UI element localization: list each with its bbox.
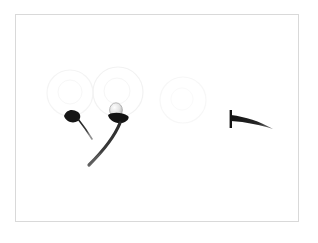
ghost-circle-left	[47, 70, 93, 116]
specimen-left-head	[64, 110, 80, 122]
specimen-left-small	[64, 110, 92, 139]
specimen-center-tail-taper	[89, 154, 100, 165]
ghost-circle-left-inner	[58, 80, 82, 104]
specimen-center-tail	[89, 123, 120, 165]
specimen-left-tail	[78, 119, 92, 139]
specimen-canvas	[0, 0, 318, 243]
specimen-plate	[0, 0, 318, 243]
ghost-circle-middle-inner	[104, 78, 130, 104]
specimen-right-tail	[231, 115, 273, 129]
specimen-center-collar	[108, 113, 129, 123]
ghost-circle-right	[160, 77, 206, 123]
specimen-right	[230, 110, 273, 129]
ghost-circle-right-inner	[171, 88, 193, 110]
specimen-center-large	[89, 103, 129, 165]
